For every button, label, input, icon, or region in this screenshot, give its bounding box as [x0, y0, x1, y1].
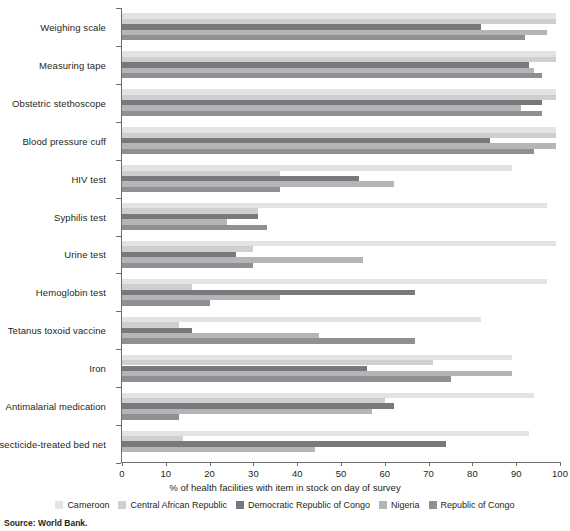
x-axis-tick	[560, 462, 561, 466]
x-axis-tick	[166, 462, 167, 466]
bar-group	[122, 355, 560, 382]
legend-swatch-icon	[55, 501, 63, 509]
legend-item[interactable]: Republic of Congo	[429, 500, 515, 510]
x-axis-tick-label: 10	[161, 468, 172, 479]
bar	[122, 447, 315, 452]
category-label: Measuring tape	[39, 59, 106, 70]
category-label: HIV test	[71, 173, 106, 184]
category-label: Blood pressure cuff	[22, 135, 106, 146]
source-note: Source: World Bank.	[4, 518, 87, 528]
bar-group	[122, 279, 560, 306]
legend-label: Cameroon	[67, 500, 109, 510]
legend-label: Central African Republic	[130, 500, 227, 510]
bar	[122, 263, 253, 268]
x-axis-tick-label: 80	[467, 468, 478, 479]
bar-group	[122, 165, 560, 192]
y-axis-tick	[116, 273, 121, 274]
chart-page: Weighing scaleMeasuring tapeObstetric st…	[0, 0, 570, 531]
category-axis-labels: Weighing scaleMeasuring tapeObstetric st…	[0, 8, 116, 463]
bar-group	[122, 89, 560, 116]
x-axis-tick	[210, 462, 211, 466]
y-axis-tick	[116, 160, 121, 161]
y-axis-tick	[116, 198, 121, 199]
category-label: Iron	[89, 363, 106, 374]
y-axis-tick	[116, 387, 121, 388]
legend-label: Democratic Republic of Congo	[248, 500, 370, 510]
category-label: Obstetric stethoscope	[12, 97, 106, 108]
bar-group	[122, 203, 560, 230]
bar	[122, 414, 179, 419]
bar	[122, 187, 280, 192]
chart-legend: CameroonCentral African RepublicDemocrat…	[0, 500, 570, 510]
x-axis-tick-label: 100	[552, 468, 568, 479]
x-axis-title: % of health facilities with item in stoc…	[0, 482, 570, 493]
category-label: Urine test	[64, 249, 106, 260]
bar-group	[122, 51, 560, 78]
y-axis-tick	[116, 425, 121, 426]
x-axis-tick	[516, 462, 517, 466]
x-axis-tick	[429, 462, 430, 466]
category-label: Tetanus toxoid vaccine	[8, 325, 106, 336]
bar	[122, 338, 415, 343]
bar-group	[122, 13, 560, 40]
legend-swatch-icon	[118, 501, 126, 509]
y-axis-tick	[116, 236, 121, 237]
category-label: Hemoglobin test	[36, 287, 106, 298]
legend-swatch-icon	[379, 501, 387, 509]
legend-item[interactable]: Nigeria	[379, 500, 420, 510]
y-axis-tick	[116, 46, 121, 47]
bar	[122, 35, 525, 40]
y-axis-tick	[116, 122, 121, 123]
bar	[122, 300, 210, 305]
legend-item[interactable]: Democratic Republic of Congo	[236, 500, 370, 510]
y-axis-tick	[116, 463, 121, 464]
bar-group	[122, 393, 560, 420]
bar	[122, 225, 267, 230]
plot-area	[122, 8, 560, 463]
legend-label: Nigeria	[391, 500, 420, 510]
legend-label: Republic of Congo	[441, 500, 515, 510]
x-axis-tick-label: 50	[336, 468, 347, 479]
legend-swatch-icon	[236, 501, 244, 509]
category-label: Weighing scale	[40, 21, 106, 32]
y-axis-tick	[116, 311, 121, 312]
bar	[122, 111, 542, 116]
x-axis-tick-label: 40	[292, 468, 303, 479]
legend-item[interactable]: Central African Republic	[118, 500, 227, 510]
y-axis-tick	[116, 84, 121, 85]
category-label: Insecticide-treated bed net	[0, 439, 106, 450]
bar	[122, 376, 451, 381]
bar-group	[122, 431, 560, 458]
x-axis-tick-label: 90	[511, 468, 522, 479]
legend-item[interactable]: Cameroon	[55, 500, 109, 510]
category-label: Syphilis test	[54, 211, 106, 222]
bar-group	[122, 317, 560, 344]
x-axis-tick-label: 0	[119, 468, 124, 479]
bar-group	[122, 241, 560, 268]
bar	[122, 73, 542, 78]
bar	[122, 149, 534, 154]
x-axis-tick	[385, 462, 386, 466]
bar-group	[122, 127, 560, 154]
category-label: Antimalarial medication	[5, 401, 106, 412]
x-axis-tick	[253, 462, 254, 466]
legend-swatch-icon	[429, 501, 437, 509]
x-axis-tick	[472, 462, 473, 466]
x-axis-tick	[341, 462, 342, 466]
x-axis-tick-label: 60	[380, 468, 391, 479]
x-axis-tick	[297, 462, 298, 466]
x-axis-tick-label: 20	[204, 468, 215, 479]
x-axis-tick-label: 30	[248, 468, 259, 479]
y-axis-tick	[116, 8, 121, 9]
y-axis-tick	[116, 349, 121, 350]
x-axis-tick	[122, 462, 123, 466]
x-axis-tick-label: 70	[423, 468, 434, 479]
